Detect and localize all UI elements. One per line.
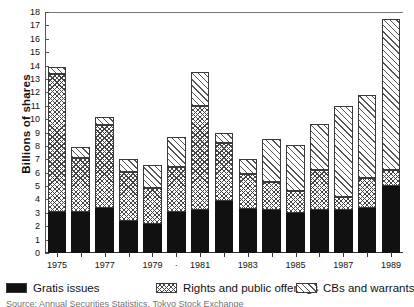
x-axis-tick-mark (272, 252, 273, 257)
x-axis-tick-mark (81, 252, 82, 257)
bar-1983[interactable] (239, 159, 258, 253)
y-axis-tick-label: 16 (0, 33, 45, 45)
bar-segment-gratis-issues (286, 213, 305, 253)
legend-item-cbs-and-warrants[interactable]: CBs and warrants (296, 281, 414, 295)
cross-hatch-swatch (156, 283, 177, 293)
bar-segment-cbs-and-warrants (95, 117, 114, 125)
bar-segment-gratis-issues (48, 212, 67, 254)
bar-1989[interactable] (382, 19, 401, 253)
bar-segment-rights-and-public-offerings (239, 174, 258, 209)
bar-segment-cbs-and-warrants (239, 159, 258, 174)
y-axis-tick-label: 8 (0, 140, 45, 152)
y-axis-tick-label: 3 (0, 207, 45, 219)
bar-segment-rights-and-public-offerings (215, 143, 234, 202)
bar-segment-cbs-and-warrants (119, 159, 138, 172)
x-axis-tick-mark (224, 252, 225, 257)
x-axis-ticks (45, 252, 403, 258)
bar-segment-cbs-and-warrants (71, 147, 90, 158)
x-axis-tick-label: 1975 (37, 259, 77, 272)
x-axis-tick-mark (57, 252, 58, 257)
bar-1987[interactable] (334, 106, 353, 253)
bar-segment-cbs-and-warrants (167, 137, 186, 167)
y-axis-tick-label: 17 (0, 19, 45, 31)
bar-segment-gratis-issues (358, 208, 377, 253)
x-axis-tick-label: 1987 (323, 259, 363, 272)
source-note: Source: Annual Securities Statistics, To… (6, 299, 406, 307)
bar-1977[interactable] (95, 117, 114, 253)
bar-segment-cbs-and-warrants (358, 95, 377, 178)
bar-1978[interactable] (119, 159, 138, 253)
x-axis-tick-mark (200, 252, 201, 257)
bar-segment-gratis-issues (95, 208, 114, 253)
bar-segment-cbs-and-warrants (286, 145, 305, 192)
bar-segment-gratis-issues (382, 186, 401, 253)
bar-1988[interactable] (358, 95, 377, 253)
solid-black-swatch (6, 283, 27, 293)
bar-segment-cbs-and-warrants (334, 106, 353, 198)
bar-segment-gratis-issues (143, 224, 162, 253)
bar-1979[interactable] (143, 165, 162, 253)
y-axis-tick-label: 18 (0, 6, 45, 18)
y-axis-tick-label: 7 (0, 153, 45, 165)
bar-1981[interactable] (191, 72, 210, 253)
x-axis-tick-label: 1989 (371, 259, 411, 272)
y-axis-tick-label: 13 (0, 73, 45, 85)
x-axis-tick-mark (367, 252, 368, 257)
x-axis-tick-mark (391, 252, 392, 257)
bar-segment-cbs-and-warrants (191, 72, 210, 105)
x-axis-tick-label: 1977 (85, 259, 125, 272)
bar-segment-rights-and-public-offerings (191, 106, 210, 210)
x-axis-tick-mark (343, 252, 344, 257)
bar-segment-rights-and-public-offerings (286, 191, 305, 212)
legend-item-rights-and-public-offerings[interactable]: Rights and public offerings (156, 281, 318, 295)
y-axis-tick-label: 15 (0, 46, 45, 58)
bar-1986[interactable] (310, 124, 329, 253)
y-axis-tick-label: 2 (0, 220, 45, 232)
y-axis-tick-label: 12 (0, 86, 45, 98)
bar-1985[interactable] (286, 145, 305, 253)
x-axis-tick-mark (248, 252, 249, 257)
bar-segment-rights-and-public-offerings (382, 170, 401, 186)
bar-1984[interactable] (262, 139, 281, 253)
legend-label: Gratis issues (33, 281, 99, 295)
y-axis-tick-label: 4 (0, 193, 45, 205)
bar-segment-gratis-issues (215, 201, 234, 253)
bar-segment-cbs-and-warrants (262, 139, 281, 182)
bar-segment-gratis-issues (334, 210, 353, 253)
bar-group (45, 12, 403, 253)
legend-label: CBs and warrants (323, 281, 414, 295)
bar-segment-cbs-and-warrants (215, 133, 234, 143)
bar-segment-rights-and-public-offerings (71, 158, 90, 212)
y-axis-tick-label: 9 (0, 127, 45, 139)
x-axis-tick-label: 1983 (228, 259, 268, 272)
bar-segment-rights-and-public-offerings (262, 182, 281, 210)
bar-segment-rights-and-public-offerings (143, 188, 162, 224)
bar-segment-gratis-issues (262, 210, 281, 253)
bar-segment-cbs-and-warrants (143, 165, 162, 188)
x-axis-tick-label: 1985 (276, 259, 316, 272)
bar-segment-gratis-issues (310, 210, 329, 254)
x-axis-labels: 197519771979·19811983198519871989 (0, 259, 406, 273)
y-axis-tick-label: 5 (0, 180, 45, 192)
bar-1975[interactable] (48, 67, 67, 253)
bar-1976[interactable] (71, 147, 90, 253)
bar-segment-rights-and-public-offerings (95, 125, 114, 208)
x-axis-tick-mark (296, 252, 297, 257)
legend-item-gratis-issues[interactable]: Gratis issues (6, 281, 99, 295)
bar-segment-cbs-and-warrants (310, 124, 329, 170)
bar-segment-rights-and-public-offerings (310, 170, 329, 210)
y-axis-tick-label: 14 (0, 60, 45, 72)
y-axis-tick-label: 0 (0, 247, 45, 259)
bar-segment-gratis-issues (191, 210, 210, 254)
bar-segment-cbs-and-warrants (48, 67, 67, 74)
x-axis-tick-mark (152, 252, 153, 257)
x-axis-tick-mark (319, 252, 320, 257)
y-axis-tick-label: 6 (0, 167, 45, 179)
bar-1980[interactable] (167, 137, 186, 253)
bar-segment-gratis-issues (71, 212, 90, 254)
bar-1982[interactable] (215, 133, 234, 254)
x-axis-tick-mark (176, 252, 177, 257)
bar-segment-cbs-and-warrants (382, 19, 401, 170)
y-axis-tick-label: 1 (0, 234, 45, 246)
